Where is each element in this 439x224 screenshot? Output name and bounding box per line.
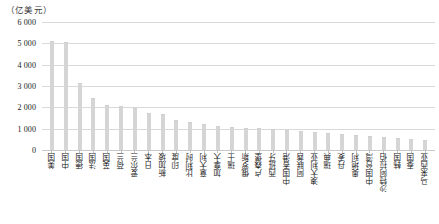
bar-slot [377, 22, 391, 150]
bar [105, 105, 109, 150]
bar [230, 127, 234, 150]
y-axis-tick-label: 4 000 [18, 60, 37, 69]
bar [368, 136, 372, 150]
y-axis-tick-label: 5 000 [18, 39, 37, 48]
x-label-slot: 法国 [86, 153, 100, 215]
bar-slot [239, 22, 253, 150]
x-label-slot: 泰国 [405, 153, 419, 215]
x-label-slot: 美国 [45, 153, 59, 215]
x-label-slot: 中国香港 [280, 153, 294, 215]
bar-slot [294, 22, 308, 150]
y-axis-tick-labels: 6 0005 0004 0003 0002 0001 0000 [0, 22, 40, 150]
y-axis-tick-label: 0 [32, 146, 36, 155]
x-label-slot: 印度 [169, 153, 183, 215]
bar [216, 126, 220, 150]
x-label-slot: 比利时 [183, 153, 197, 215]
x-label-slot: 爱尔兰 [128, 153, 142, 215]
bar [326, 133, 330, 150]
bar [409, 139, 413, 150]
x-axis-category-label: 奥地利 [352, 153, 360, 177]
x-label-slot: 瑞士 [225, 153, 239, 215]
bar-slot [308, 22, 322, 150]
bar-slot [211, 22, 225, 150]
bar-slot [128, 22, 142, 150]
bar [285, 130, 289, 150]
y-axis-tick-label: 1 000 [18, 124, 37, 133]
bar [299, 131, 303, 150]
bar-slot [183, 22, 197, 150]
x-axis-category-label: 意大利 [200, 153, 208, 177]
bar-slot [335, 22, 349, 150]
x-label-slot: 中国 [59, 153, 73, 215]
x-label-slot: 沙特阿拉伯 [377, 153, 391, 215]
x-label-slot: 中国台湾 [363, 153, 377, 215]
bar-slot [59, 22, 73, 150]
bar-slot [142, 22, 156, 150]
bar-slot [322, 22, 336, 150]
bar-slot [73, 22, 87, 150]
x-axis-category-label: 韩国 [394, 153, 402, 169]
bar [133, 108, 137, 150]
bar-slot [225, 22, 239, 150]
plot-area [42, 22, 435, 150]
x-axis-category-label: 加拿大 [214, 153, 222, 177]
bar [161, 114, 165, 150]
bar-slot [45, 22, 59, 150]
x-label-slot: 加拿大 [211, 153, 225, 215]
x-axis-category-label: 泰国 [407, 153, 415, 169]
bar [257, 128, 261, 150]
bar-slot [114, 22, 128, 150]
x-label-slot: 荷兰 [114, 153, 128, 215]
bar-slot [197, 22, 211, 150]
bar [271, 129, 275, 150]
x-axis-category-label: 德国 [76, 153, 84, 169]
bar-slot [169, 22, 183, 150]
bar [50, 41, 54, 150]
y-axis-tick-label: 6 000 [18, 18, 37, 27]
x-label-slot: 澳大利亚 [308, 153, 322, 215]
x-axis-category-label: 法国 [89, 153, 97, 169]
x-label-slot: 韩国 [391, 153, 405, 215]
x-axis-category-label: 中国 [62, 153, 70, 169]
x-axis-category-label: 澳大利亚 [311, 153, 319, 185]
x-axis-category-label: 俄罗斯 [242, 153, 250, 177]
bar-slot [156, 22, 170, 150]
x-axis-category-label: 日本 [145, 153, 153, 169]
x-axis-category-label: 马来西亚 [421, 153, 429, 185]
bar-slot [100, 22, 114, 150]
bar-slot [252, 22, 266, 150]
x-label-slot: 新加坡 [156, 153, 170, 215]
x-label-slot: 马来西亚 [418, 153, 432, 215]
x-axis-category-labels: 美国中国德国法国英国荷兰爱尔兰日本新加坡印度比利时意大利加拿大瑞士俄罗斯卢森堡西… [42, 153, 435, 215]
bar [91, 98, 95, 150]
x-axis-category-label: 丹麦 [338, 153, 346, 169]
bar [202, 124, 206, 150]
bar [78, 83, 82, 150]
x-label-slot: 德国 [73, 153, 87, 215]
x-axis-category-label: 沙特阿拉伯 [380, 153, 388, 193]
x-label-slot: 西班牙 [266, 153, 280, 215]
x-label-slot: 日本 [142, 153, 156, 215]
bar [64, 42, 68, 150]
bar [188, 122, 192, 150]
bar [396, 138, 400, 150]
x-axis-category-label: 中国台湾 [366, 153, 374, 185]
x-axis-category-label: 荷兰 [117, 153, 125, 169]
x-axis-category-label: 比利时 [186, 153, 194, 177]
bar [340, 134, 344, 150]
bar-slot [280, 22, 294, 150]
bar [313, 132, 317, 150]
x-axis-category-label: 新加坡 [159, 153, 167, 177]
bar-series [42, 22, 435, 150]
x-axis-category-label: 瑞典 [324, 153, 332, 169]
x-axis-category-label: 卢森堡 [255, 153, 263, 177]
bar [354, 135, 358, 150]
bar-slot [363, 22, 377, 150]
bar [147, 113, 151, 150]
y-axis-tick-label: 2 000 [18, 103, 37, 112]
y-axis-unit-label: （亿美元） [6, 3, 52, 15]
chart-page: （亿美元） 6 0005 0004 0003 0002 0001 0000 美国… [0, 0, 439, 224]
x-label-slot: 瑞典 [322, 153, 336, 215]
x-label-slot: 卢森堡 [252, 153, 266, 215]
bar-slot [405, 22, 419, 150]
